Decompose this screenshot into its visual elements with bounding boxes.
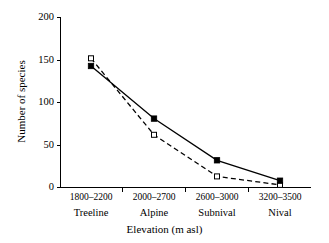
y-axis-title: Number of species [16, 37, 27, 167]
solid-series-line [91, 66, 280, 181]
x-zone-alpine: Alpine [120, 208, 188, 219]
y-axis-ticks [57, 18, 61, 188]
y-tick-label-200: 200 [26, 12, 54, 23]
x-zone-subnival: Subnival [183, 208, 251, 219]
solid-series-markers [88, 63, 282, 183]
y-tick-label-100: 100 [26, 97, 54, 108]
x-tick-range-subnival: 2600–3000 [183, 193, 251, 203]
chart-figure: 200 150 100 50 0 1800–2200 2000–2700 260… [0, 0, 329, 243]
y-tick-label-50: 50 [26, 140, 54, 151]
y-tick-label-0: 0 [26, 182, 54, 193]
x-tick-range-treeline: 1800–2200 [57, 193, 125, 203]
y-tick-label-150: 150 [26, 55, 54, 66]
axis-spines [61, 18, 311, 188]
x-axis-title: Elevation (m asl) [0, 224, 329, 235]
x-tick-range-alpine: 2000–2700 [120, 193, 188, 203]
x-axis-ticks [123, 188, 249, 192]
x-tick-range-nival: 3200–3500 [246, 193, 314, 203]
x-zone-nival: Nival [246, 208, 314, 219]
x-zone-treeline: Treeline [57, 208, 125, 219]
dashed-series-markers [89, 56, 283, 188]
dashed-series-line [91, 58, 280, 185]
